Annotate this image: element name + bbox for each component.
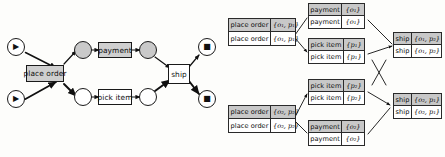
table-row[interactable]: pick item {p₂}	[309, 80, 364, 92]
table-row[interactable]: payment {o₁}	[309, 4, 364, 16]
sink-place-item: ■	[198, 90, 216, 108]
objects-cell: {p₂}	[344, 92, 364, 104]
table-row[interactable]: ship {o₁, p₂}	[394, 33, 441, 45]
place-order-pending	[74, 41, 92, 59]
source-place-order: ▶	[7, 38, 25, 56]
table-row[interactable]: payment {o₁}	[309, 16, 364, 28]
transition-place-order[interactable]: place order	[26, 65, 64, 82]
activity-cell: pick item	[309, 39, 344, 50]
play-marker: ▶	[13, 43, 19, 51]
activity-cell: ship	[394, 33, 412, 44]
alignment-box-ship-1[interactable]: ship {o₁, p₂} ship {o₁, p₂}	[393, 32, 442, 58]
objects-cell: {o₁}	[342, 4, 364, 15]
transition-ship[interactable]: ship	[168, 64, 190, 84]
objects-cell: {o₁}	[342, 16, 364, 28]
activity-cell: pick item	[309, 51, 344, 63]
activity-cell: place order	[229, 32, 271, 45]
place-order-paid	[139, 41, 157, 59]
activity-cell: payment	[309, 16, 342, 28]
objects-cell: {o₂, p₁}	[412, 106, 442, 118]
alignment-box-pick-item-2[interactable]: pick item {p₂} pick item {p₂}	[308, 79, 365, 105]
objects-cell: {o₂, p₁}	[412, 94, 442, 105]
objects-cell: {o₁, p₁}	[271, 19, 301, 31]
activity-cell: pick item	[309, 92, 344, 104]
objects-cell: {p₁}	[344, 39, 364, 50]
activity-cell: payment	[309, 4, 342, 15]
table-row[interactable]: place order {o₂, p₂}	[229, 119, 295, 132]
objects-cell: {o₂}	[342, 121, 364, 132]
stop-marker: ■	[203, 95, 211, 103]
place-item-picked	[139, 88, 157, 106]
table-row[interactable]: place order {o₁, p₁}	[229, 19, 295, 32]
table-row[interactable]: ship {o₁, p₂}	[394, 45, 441, 57]
alignment-box-payment-2[interactable]: payment {o₂} payment {o₂}	[308, 120, 365, 146]
alignment-box-ship-2[interactable]: ship {o₂, p₁} ship {o₂, p₁}	[393, 93, 442, 119]
table-row[interactable]: pick item {p₂}	[309, 92, 364, 104]
alignment-box-payment-1[interactable]: payment {o₁} payment {o₁}	[308, 3, 365, 29]
activity-cell: ship	[394, 94, 412, 105]
table-row[interactable]: pick item {p₁}	[309, 51, 364, 63]
activity-cell: ship	[394, 106, 412, 118]
activity-cell: payment	[309, 121, 342, 132]
alignment-box-place-order-2[interactable]: place order {o₂, p₂} place order {o₂, p₂…	[228, 105, 296, 133]
table-row[interactable]: payment {o₂}	[309, 121, 364, 133]
activity-cell: payment	[309, 133, 342, 145]
transition-pick-item[interactable]: pick item	[98, 89, 132, 105]
alignment-box-place-order-1[interactable]: place order {o₁, p₁} place order {o₁, p₁…	[228, 18, 296, 46]
table-row[interactable]: ship {o₂, p₁}	[394, 94, 441, 106]
transition-payment[interactable]: payment	[98, 42, 132, 58]
objects-cell: {p₂}	[344, 80, 364, 91]
objects-cell: {o₂, p₂}	[271, 106, 301, 118]
play-marker: ▶	[13, 95, 19, 103]
table-row[interactable]: place order {o₁, p₁}	[229, 32, 295, 45]
stop-marker: ■	[203, 43, 211, 51]
sink-place-order: ■	[198, 38, 216, 56]
figure-canvas: ▶ ▶ place order payment pick item ship ■…	[0, 0, 445, 157]
objects-cell: {o₁, p₁}	[271, 32, 301, 45]
objects-cell: {o₁, p₂}	[412, 33, 442, 44]
objects-cell: {o₂}	[342, 133, 364, 145]
activity-cell: pick item	[309, 80, 344, 91]
objects-cell: {o₂, p₂}	[271, 119, 301, 132]
alignment-box-pick-item-1[interactable]: pick item {p₁} pick item {p₁}	[308, 38, 365, 64]
table-row[interactable]: ship {o₂, p₁}	[394, 106, 441, 118]
table-row[interactable]: payment {o₂}	[309, 133, 364, 145]
arc-layer	[0, 0, 445, 157]
place-item-pending	[74, 88, 92, 106]
source-place-item: ▶	[7, 90, 25, 108]
activity-cell: place order	[229, 119, 271, 132]
activity-cell: place order	[229, 19, 271, 31]
activity-cell: ship	[394, 45, 412, 57]
table-row[interactable]: place order {o₂, p₂}	[229, 106, 295, 119]
table-row[interactable]: pick item {p₁}	[309, 39, 364, 51]
objects-cell: {p₁}	[344, 51, 364, 63]
activity-cell: place order	[229, 106, 271, 118]
objects-cell: {o₁, p₂}	[412, 45, 442, 57]
